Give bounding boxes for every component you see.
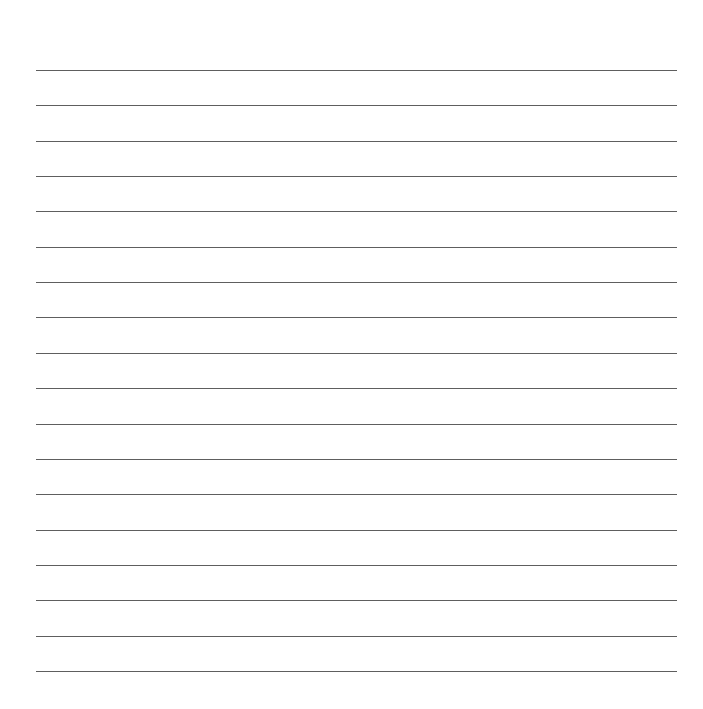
ruled-line [36,600,677,601]
ruled-line [36,70,677,71]
ruled-line [36,530,677,531]
ruled-line [36,317,677,318]
ruled-line [36,388,677,389]
ruled-line [36,141,677,142]
ruled-line [36,105,677,106]
ruled-line [36,671,677,672]
ruled-line [36,176,677,177]
ruled-line [36,247,677,248]
ruled-line [36,636,677,637]
lined-paper-sheet [0,0,703,709]
ruled-line [36,459,677,460]
ruled-line [36,282,677,283]
ruled-line [36,494,677,495]
ruled-line [36,211,677,212]
ruled-line [36,424,677,425]
ruled-line [36,565,677,566]
ruled-line [36,353,677,354]
